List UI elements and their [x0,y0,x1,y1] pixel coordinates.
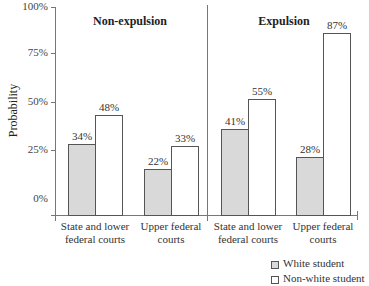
bar-nonexp-upper-white [144,169,172,216]
bar-exp-upper-nonwhite [323,33,351,216]
ytick-25: 25% [8,143,48,155]
bar-label-28: 28% [290,143,330,155]
bar-exp-upper-white [296,157,324,216]
legend-label-nonwhite: Non-white student [283,272,365,284]
y-axis-label: Probability [6,71,21,151]
bar-label-22: 22% [138,155,178,167]
bar-nonexp-state-white [68,144,96,216]
bar-label-48: 48% [89,101,129,113]
x-axis-end-tick [357,211,358,220]
ytick-50: 50% [8,95,48,107]
xlabel-exp-upper: Upper federal courts [273,220,369,246]
legend-swatch-white [271,261,279,269]
legend-swatch-nonwhite [271,276,279,284]
xlabel-line2: courts [273,233,369,246]
ytick-0: 0% [8,192,48,204]
bar-label-41: 41% [215,115,255,127]
ytick-75: 75% [8,46,48,58]
ytick-100: 100% [8,0,48,12]
bar-exp-state-white [221,129,249,216]
xlabel-line1: Upper federal [273,220,369,233]
y-axis-line [55,7,56,221]
panel-divider [207,5,208,221]
panel-title-non-expulsion: Non-expulsion [70,14,190,29]
bar-label-55: 55% [242,85,282,97]
legend-label-white: White student [283,257,344,269]
bar-label-34: 34% [62,130,102,142]
bar-label-87: 87% [317,19,357,31]
bar-label-33: 33% [165,132,205,144]
